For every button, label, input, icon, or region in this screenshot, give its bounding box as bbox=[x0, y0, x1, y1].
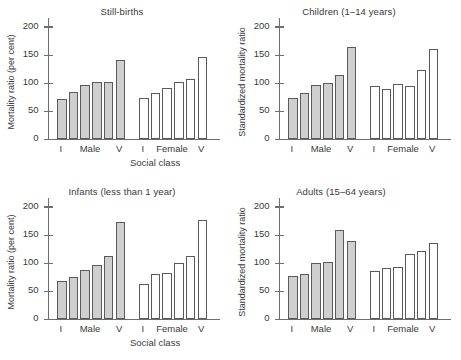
bar bbox=[57, 281, 67, 319]
x-axis-tick-labels: IMaleVIFemaleV bbox=[48, 142, 219, 156]
bar-group bbox=[280, 201, 451, 319]
x-tick-label-male-first: I bbox=[290, 142, 293, 155]
y-axis-label: Mortality ratio (per cent) bbox=[4, 20, 18, 144]
chart-panel-adults: Adults (15–64 years) Standardized mortal… bbox=[231, 180, 461, 360]
x-tick-label-male: Male bbox=[80, 322, 101, 335]
x-tick-label-female: Female bbox=[156, 142, 188, 155]
x-tick-label-male-first: I bbox=[59, 142, 62, 155]
bar bbox=[174, 263, 184, 319]
bar bbox=[347, 47, 357, 139]
x-tick-label-male-first: I bbox=[59, 322, 62, 335]
bar-group bbox=[49, 201, 220, 319]
bar bbox=[429, 49, 439, 139]
plot-area: 050100150200 IMaleVIFemaleV bbox=[48, 202, 218, 320]
bar-group bbox=[49, 21, 220, 139]
bar bbox=[198, 220, 208, 319]
y-tick-label: 200 bbox=[23, 20, 39, 32]
bar bbox=[151, 274, 161, 319]
y-tick-label: 50 bbox=[28, 104, 39, 116]
y-tick-label: 150 bbox=[23, 228, 39, 240]
x-axis-tick-labels: IMaleVIFemaleV bbox=[279, 322, 450, 336]
bar bbox=[92, 265, 102, 320]
bar bbox=[151, 93, 161, 139]
y-tick-label: 50 bbox=[28, 284, 39, 296]
bar bbox=[311, 263, 321, 319]
bar bbox=[323, 262, 333, 319]
y-axis-label: Standardized mortality ratio bbox=[235, 20, 249, 144]
bar bbox=[80, 85, 90, 139]
y-tick-label: 100 bbox=[254, 76, 270, 88]
bar bbox=[174, 82, 184, 139]
x-axis-tick-labels: IMaleVIFemaleV bbox=[279, 142, 450, 156]
y-tick-label: 0 bbox=[264, 312, 269, 324]
y-tick-label: 150 bbox=[254, 48, 270, 60]
plot-area: 050100150200 IMaleVIFemaleV bbox=[48, 22, 218, 140]
y-axis-label: Mortality ratio (per cent) bbox=[4, 200, 18, 324]
bar bbox=[370, 86, 380, 139]
plot-area: 050100150200 IMaleVIFemaleV bbox=[279, 22, 449, 140]
chart-panel-still-births: Still-births Mortality ratio (per cent) … bbox=[0, 0, 230, 180]
bar bbox=[104, 82, 114, 139]
bar bbox=[116, 60, 126, 139]
x-tick-label-male-last: V bbox=[116, 142, 122, 155]
x-tick-label-male: Male bbox=[311, 142, 332, 155]
x-tick-label-female-first: I bbox=[372, 142, 375, 155]
bar bbox=[104, 256, 114, 319]
bar bbox=[116, 222, 126, 319]
bar bbox=[186, 79, 196, 139]
x-tick-label-female: Female bbox=[387, 322, 419, 335]
y-tick-label: 0 bbox=[264, 132, 269, 144]
bar bbox=[405, 254, 415, 319]
bar bbox=[300, 93, 310, 139]
x-tick-label-male: Male bbox=[311, 322, 332, 335]
y-tick-label: 0 bbox=[33, 312, 38, 324]
x-tick-label-male-last: V bbox=[347, 322, 353, 335]
bar bbox=[335, 75, 345, 139]
bar bbox=[162, 88, 172, 139]
x-tick-label-male-last: V bbox=[347, 142, 353, 155]
x-axis-tick-labels: IMaleVIFemaleV bbox=[48, 322, 219, 336]
bar bbox=[393, 84, 403, 139]
x-tick-label-female: Female bbox=[387, 142, 419, 155]
chart-panel-children: Children (1–14 years) Standardized morta… bbox=[231, 0, 461, 180]
chart-title: Still-births bbox=[0, 6, 222, 17]
x-tick-label-male-first: I bbox=[290, 322, 293, 335]
bar bbox=[186, 256, 196, 319]
x-tick-label-female-first: I bbox=[141, 142, 144, 155]
bar bbox=[198, 57, 208, 139]
mortality-ratio-figure: Still-births Mortality ratio (per cent) … bbox=[0, 0, 461, 360]
bar bbox=[393, 267, 403, 319]
bar bbox=[139, 284, 149, 319]
x-tick-label-female-last: V bbox=[429, 142, 435, 155]
bar bbox=[311, 85, 321, 139]
chart-title: Infants (less than 1 year) bbox=[0, 186, 222, 197]
x-tick-label-female-first: I bbox=[141, 322, 144, 335]
bar bbox=[69, 277, 79, 319]
bar bbox=[370, 271, 380, 319]
x-tick-label-male: Male bbox=[80, 142, 101, 155]
bar bbox=[288, 98, 298, 139]
y-tick-label: 100 bbox=[23, 76, 39, 88]
y-tick-label: 200 bbox=[254, 200, 270, 212]
bar-group bbox=[280, 21, 451, 139]
bar bbox=[139, 98, 149, 139]
y-tick-label: 150 bbox=[254, 228, 270, 240]
chart-title: Children (1–14 years) bbox=[231, 6, 449, 17]
bar bbox=[347, 241, 357, 319]
x-tick-label-female-last: V bbox=[198, 142, 204, 155]
bar bbox=[323, 83, 333, 139]
y-axis-label: Standardized mortality ratio bbox=[235, 200, 249, 324]
y-tick-label: 50 bbox=[259, 104, 270, 116]
bar bbox=[335, 230, 345, 319]
bar bbox=[162, 273, 172, 319]
y-tick-label: 100 bbox=[23, 256, 39, 268]
bar bbox=[382, 89, 392, 139]
y-tick-label: 200 bbox=[254, 20, 270, 32]
x-tick-label-male-last: V bbox=[116, 322, 122, 335]
bar bbox=[80, 270, 90, 319]
bar bbox=[382, 268, 392, 319]
x-tick-label-female-first: I bbox=[372, 322, 375, 335]
plot-area: 050100150200 IMaleVIFemaleV bbox=[279, 202, 449, 320]
x-tick-label-female: Female bbox=[156, 322, 188, 335]
y-tick-label: 150 bbox=[23, 48, 39, 60]
